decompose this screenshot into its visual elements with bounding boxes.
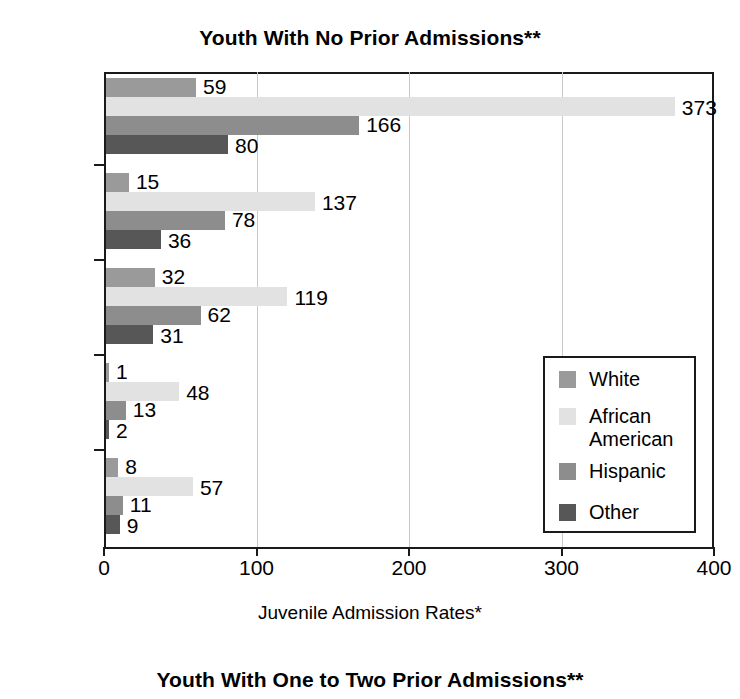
x-tick: [103, 547, 105, 556]
legend-swatch-icon: [559, 463, 576, 480]
bar-value-label: 2: [116, 421, 128, 440]
bar-value-label: 11: [130, 495, 152, 514]
bar: [106, 287, 287, 306]
legend-label: Hispanic: [589, 460, 666, 483]
plot-border-right: [712, 72, 714, 547]
bar-value-label: 9: [127, 516, 139, 535]
y-tick: [94, 354, 104, 356]
x-tick: [256, 547, 258, 556]
bar-value-label: 80: [235, 136, 258, 155]
x-tick-label: 100: [217, 556, 297, 580]
bar: [106, 211, 225, 230]
x-tick-label: 200: [369, 556, 449, 580]
legend-label: African American: [589, 405, 673, 451]
bar-value-label: 15: [136, 172, 159, 191]
x-tick-label: 400: [674, 556, 740, 580]
bar-value-label: 78: [232, 210, 255, 229]
legend-swatch-icon: [559, 408, 576, 425]
bar-value-label: 373: [682, 98, 717, 117]
bar-value-label: 8: [125, 457, 137, 476]
bar: [106, 401, 126, 420]
legend: WhiteAfrican AmericanHispanicOther: [543, 356, 696, 533]
x-tick: [408, 547, 410, 556]
bar: [106, 192, 315, 211]
legend-item: Other: [559, 501, 639, 524]
bar-value-label: 166: [366, 115, 401, 134]
bar: [106, 78, 196, 97]
x-axis-title: Juvenile Admission Rates*: [0, 602, 740, 624]
bar-value-label: 57: [200, 478, 223, 497]
legend-label: White: [589, 368, 640, 391]
legend-item: White: [559, 368, 640, 391]
bar: [106, 116, 359, 135]
bar-value-label: 36: [168, 231, 191, 250]
legend-swatch-icon: [559, 504, 576, 521]
bar-value-label: 59: [203, 77, 226, 96]
bar: [106, 515, 120, 534]
bar: [106, 458, 118, 477]
x-tick-label: 0: [64, 556, 144, 580]
x-tick: [713, 547, 715, 556]
bar: [106, 173, 129, 192]
legend-item: African American: [559, 405, 673, 451]
y-tick: [94, 259, 104, 261]
legend-label: Other: [589, 501, 639, 524]
y-tick: [94, 164, 104, 166]
bar: [106, 230, 161, 249]
bar-value-label: 137: [322, 193, 357, 212]
bar-value-label: 48: [186, 383, 209, 402]
bar: [106, 496, 123, 515]
bar: [106, 325, 153, 344]
bar: [106, 306, 201, 325]
y-tick: [94, 449, 104, 451]
bar-value-label: 119: [294, 288, 327, 307]
bar-value-label: 32: [162, 267, 185, 286]
bar-value-label: 31: [160, 326, 183, 345]
bar-value-label: 13: [133, 400, 156, 419]
next-section-title: Youth With One to Two Prior Admissions**: [0, 668, 740, 692]
bar-value-label: 1: [116, 362, 128, 381]
x-tick: [561, 547, 563, 556]
bar-value-label: 62: [208, 305, 231, 324]
bar: [106, 135, 228, 154]
x-tick-label: 300: [522, 556, 602, 580]
bar: [106, 363, 109, 382]
chart-container: Youth With No Prior Admissions** 5937316…: [0, 0, 740, 699]
legend-swatch-icon: [559, 371, 576, 388]
bar: [106, 268, 155, 287]
chart-title: Youth With No Prior Admissions**: [0, 26, 740, 50]
gridline: [409, 72, 410, 547]
legend-item: Hispanic: [559, 460, 666, 483]
bar: [106, 420, 109, 439]
